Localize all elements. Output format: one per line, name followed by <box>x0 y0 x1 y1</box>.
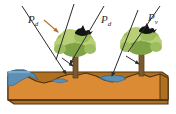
tree-left <box>54 25 96 78</box>
flux-subscript-pd-right: d <box>108 20 112 28</box>
flux-label-pd-right: Pd <box>101 14 111 28</box>
flux-label-pv: Pv <box>148 12 158 26</box>
flux-label-pd-left: Pd <box>28 14 38 28</box>
flux-subscript-pv: v <box>155 18 158 26</box>
flux-subscript-pd-left: d <box>35 20 39 28</box>
small-flux-arrow <box>44 20 58 32</box>
soil-block-right-face <box>160 74 168 100</box>
precipitation-diagram: Pd Pd Pv <box>0 0 176 114</box>
flux-symbol-pd-right: P <box>101 13 108 25</box>
flux-symbol-pd-left: P <box>28 13 35 25</box>
bird-left-icon <box>75 25 93 36</box>
water-pool-left-highlight <box>8 71 30 73</box>
stemflow-arrow-right <box>126 56 139 64</box>
tree-right <box>120 23 162 76</box>
flux-symbol-pv: P <box>148 11 155 23</box>
